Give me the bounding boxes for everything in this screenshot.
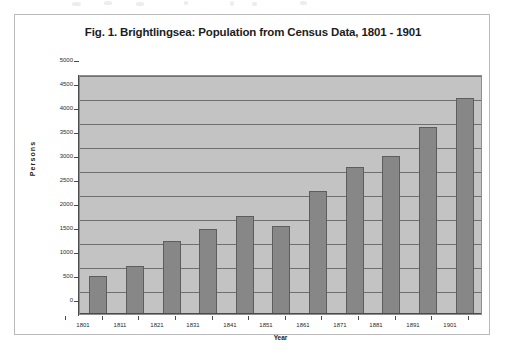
x-axis-tick	[431, 316, 432, 320]
x-axis-tick	[212, 316, 213, 320]
gridline	[80, 76, 481, 77]
figure-frame: Fig. 1. Brightlingsea: Population from C…	[14, 14, 490, 335]
y-axis-tick	[74, 133, 79, 134]
x-axis-baseline	[80, 313, 481, 314]
x-axis-tick	[468, 316, 469, 320]
x-axis-tick	[138, 316, 139, 320]
y-axis-tick-labels: 5000450040003500300025002000150010005000	[15, 15, 73, 354]
bar	[309, 191, 327, 314]
y-axis-tick	[74, 205, 79, 206]
bar	[419, 127, 437, 314]
x-axis-tick	[248, 316, 249, 320]
y-axis-tick-label: 4500	[21, 81, 73, 87]
y-axis-tick	[74, 85, 79, 86]
x-axis-tick-label: 1901	[430, 322, 470, 328]
bar	[346, 167, 364, 314]
y-axis-tick	[74, 253, 79, 254]
x-axis-tick	[395, 316, 396, 320]
y-axis-tick-label: 5000	[21, 57, 73, 63]
bar	[456, 98, 474, 314]
x-axis-tick-label: 1801	[63, 322, 103, 328]
x-axis-tick	[102, 316, 103, 320]
x-axis-tick	[358, 316, 359, 320]
bar	[382, 156, 400, 314]
y-axis-tick-label: 1000	[21, 249, 73, 255]
plot-area	[79, 75, 482, 315]
scan-speck	[230, 1, 234, 6]
x-axis-tick-label: 1811	[100, 322, 140, 328]
x-axis-tick-label: 1831	[173, 322, 213, 328]
x-axis-tick-label: 1841	[210, 322, 250, 328]
scan-speck	[300, 1, 307, 5]
x-axis-title: Year	[79, 334, 482, 341]
y-axis-tick-label: 0	[21, 297, 73, 303]
y-axis-tick	[74, 301, 79, 302]
plot-wrapper	[79, 75, 482, 315]
gridline	[80, 124, 481, 125]
x-axis-tick-label: 1891	[393, 322, 433, 328]
x-axis-tick	[321, 316, 322, 320]
bar	[236, 216, 254, 314]
x-axis-tick-label: 1871	[320, 322, 360, 328]
x-axis-tick-label: 1851	[246, 322, 286, 328]
x-axis-tick-label: 1821	[137, 322, 177, 328]
y-axis-title: Persons	[29, 114, 36, 204]
x-axis-tick	[285, 316, 286, 320]
scan-speck	[72, 2, 81, 6]
y-axis-tick	[74, 277, 79, 278]
bar	[89, 276, 107, 314]
x-axis-tick-label: 1861	[283, 322, 323, 328]
x-axis-tick-label: 1881	[356, 322, 396, 328]
y-axis-tick-label: 4000	[21, 105, 73, 111]
y-axis-tick	[74, 181, 79, 182]
scan-speck	[184, 1, 188, 5]
scan-speck	[104, 1, 112, 5]
y-axis-tick	[74, 157, 79, 158]
bar	[272, 226, 290, 314]
y-axis-tick-label: 1500	[21, 225, 73, 231]
scan-speck	[136, 2, 144, 6]
gridline	[80, 100, 481, 101]
bar	[163, 241, 181, 314]
scan-artifacts	[0, 0, 506, 12]
y-axis-tick	[74, 109, 79, 110]
scan-speck	[252, 2, 257, 6]
bar	[126, 266, 144, 314]
y-axis-tick	[74, 229, 79, 230]
chart-title: Fig. 1. Brightlingsea: Population from C…	[15, 26, 491, 38]
x-axis-tick	[65, 316, 66, 320]
y-axis-tick	[74, 61, 79, 62]
x-axis-tick	[175, 316, 176, 320]
bar	[199, 229, 217, 314]
y-axis-tick-label: 500	[21, 273, 73, 279]
